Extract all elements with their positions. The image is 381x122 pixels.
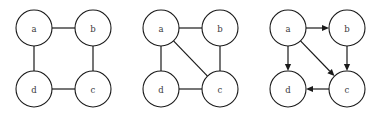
graph-canvas-graph-1: abcd — [0, 0, 127, 122]
graph-node-d[interactable]: d — [270, 71, 306, 107]
node-label-a: a — [31, 24, 36, 34]
arrowhead-a-d — [285, 64, 291, 71]
graph-node-c[interactable]: c — [202, 71, 238, 107]
graph-node-b[interactable]: b — [329, 10, 365, 46]
edge-a-c — [301, 41, 330, 71]
node-layer: abcd — [16, 10, 111, 107]
graph-canvas-graph-2: abcd — [127, 0, 254, 122]
graph-node-a[interactable]: a — [16, 10, 52, 46]
node-label-b: b — [344, 24, 350, 34]
node-label-a: a — [285, 24, 290, 34]
graph-canvas-graph-3: abcd — [254, 0, 381, 122]
graph-node-b[interactable]: b — [75, 10, 111, 46]
graph-node-c[interactable]: c — [329, 71, 365, 107]
graph-node-b[interactable]: b — [202, 10, 238, 46]
graph-panel-3: abcd — [254, 0, 381, 122]
graph-node-a[interactable]: a — [270, 10, 306, 46]
arrowhead-a-b — [322, 25, 329, 31]
node-label-b: b — [217, 24, 223, 34]
graph-node-a[interactable]: a — [143, 10, 179, 46]
node-label-c: c — [91, 85, 96, 95]
graph-panel-1: abcd — [0, 0, 127, 122]
node-label-a: a — [158, 24, 163, 34]
node-label-d: d — [158, 85, 164, 95]
arrowhead-c-d — [306, 86, 313, 92]
graph-figure: abcd abcd abcd — [0, 0, 381, 122]
arrowhead-b-c — [344, 64, 350, 71]
node-label-d: d — [31, 85, 37, 95]
graph-node-c[interactable]: c — [75, 71, 111, 107]
edge-a-c — [174, 41, 208, 76]
node-label-b: b — [90, 24, 96, 34]
node-label-c: c — [345, 85, 350, 95]
node-label-d: d — [285, 85, 291, 95]
graph-panel-2: abcd — [127, 0, 254, 122]
node-label-c: c — [218, 85, 223, 95]
graph-node-d[interactable]: d — [16, 71, 52, 107]
graph-node-d[interactable]: d — [143, 71, 179, 107]
